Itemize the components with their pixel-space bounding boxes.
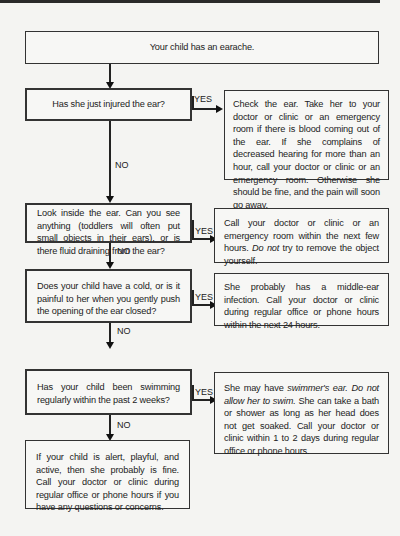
connector-q3-q4: [109, 323, 111, 343]
question-3-text: Does your child have a cold, or is it pa…: [37, 281, 180, 316]
question-2-box: Look inside the ear. Can you see anythin…: [25, 203, 192, 243]
question-1-text: Has she just injured the ear?: [52, 98, 165, 111]
no-label-3: NO: [117, 326, 131, 336]
connector-q3-yes-stub: [192, 290, 194, 304]
question-3-box: Does your child have a cold, or is it pa…: [25, 269, 192, 323]
connector-q2-yes-stub: [192, 220, 194, 238]
arrow-down-icon: [106, 196, 114, 203]
yes-label-3: YES: [195, 292, 213, 302]
answer-4-text: She may have swimmer's ear. Do not allow…: [224, 383, 379, 456]
answer-3-box: She probably has a middle-ear infection.…: [214, 273, 389, 326]
answer-2-box: Call your doctor or clinic or an emergen…: [214, 208, 389, 263]
no-label-2: NO: [117, 246, 131, 256]
no-label-1: NO: [115, 160, 129, 170]
yes-label-1: YES: [194, 94, 212, 104]
answer-2-text: Call your doctor or clinic or an emergen…: [224, 218, 379, 266]
final-box: If your child is alert, playful, and act…: [25, 440, 190, 509]
answer-4-box: She may have swimmer's ear. Do not allow…: [214, 372, 389, 454]
top-rule: [0, 0, 380, 3]
connector-q2-q3: [109, 243, 111, 263]
question-4-box: Has your child been swimming regularly w…: [25, 369, 192, 415]
answer-1-box: Check the ear. Take her to your doctor o…: [224, 90, 389, 180]
question-1-box: Has she just injured the ear?: [25, 88, 192, 121]
question-4-text: Has your child been swimming regularly w…: [37, 382, 180, 405]
connector-q4-yes-stub: [192, 385, 194, 399]
arrow-down-icon: [106, 342, 114, 349]
start-box: Your child has an earache.: [25, 31, 379, 64]
final-text: If your child is alert, playful, and act…: [36, 452, 179, 512]
answer-1-text: Check the ear. Take her to your doctor o…: [233, 99, 380, 210]
connector-start-q1: [109, 64, 111, 82]
arrow-down-icon: [106, 262, 114, 269]
answer-3-text: She probably has a middle-ear infection.…: [224, 282, 379, 330]
connector-q1-q2: [109, 121, 111, 197]
arrow-right-icon: [216, 105, 223, 113]
yes-label-4: YES: [195, 387, 213, 397]
connector-q4-final: [109, 415, 111, 435]
start-text: Your child has an earache.: [150, 41, 255, 54]
yes-label-2: YES: [195, 226, 213, 236]
no-label-4: NO: [117, 420, 131, 430]
